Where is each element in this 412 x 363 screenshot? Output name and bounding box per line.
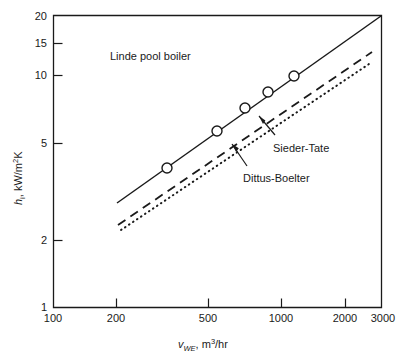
x-tick-label-1000: 1000 <box>269 312 293 324</box>
y-axis-unit-post: K <box>12 151 24 159</box>
sieder-tate-label: Sieder-Tate <box>273 142 329 154</box>
plot-note-linde-pool-boiler: Linde pool boiler <box>110 50 191 62</box>
y-axis-unit-pre: , kW/m <box>12 163 24 197</box>
data-point-1 <box>162 163 172 173</box>
chart-svg: 100 200 500 1000 2000 3000 1 2 5 10 15 2… <box>0 0 412 363</box>
data-point-5 <box>289 71 299 81</box>
data-point-3 <box>240 103 250 113</box>
y-tick-label-15: 15 <box>35 37 47 49</box>
x-tick-label-200: 200 <box>107 312 125 324</box>
data-point-2 <box>212 126 222 136</box>
chart-background <box>0 0 412 363</box>
y-tick-label-10: 10 <box>35 69 47 81</box>
x-axis-unit-pre: , m <box>196 338 211 350</box>
y-tick-label-1: 1 <box>41 301 47 313</box>
x-tick-label-3000: 3000 <box>371 312 395 324</box>
dittus-boelter-label: Dittus-Boelter <box>243 172 310 184</box>
x-tick-label-500: 500 <box>199 312 217 324</box>
x-axis-unit-post: /hr <box>215 338 228 350</box>
data-point-4 <box>263 87 273 97</box>
x-tick-label-2000: 2000 <box>333 312 357 324</box>
y-tick-label-20: 20 <box>35 10 47 22</box>
y-tick-label-5: 5 <box>41 137 47 149</box>
y-tick-label-2: 2 <box>41 234 47 246</box>
x-tick-label-100: 100 <box>44 312 62 324</box>
chart-figure: 100 200 500 1000 2000 3000 1 2 5 10 15 2… <box>0 0 412 363</box>
